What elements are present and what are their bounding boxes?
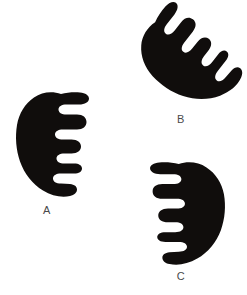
comb-silhouette-icon [15,91,91,199]
panel-label-a: A [35,204,59,216]
panel-label-c: C [169,270,193,282]
silhouette-path-b [126,0,247,121]
figure-panel-group: A B C [0,0,247,295]
panel-label-b: B [169,113,193,125]
specimen-silhouette-b [148,8,228,108]
specimen-silhouette-c [148,161,226,265]
silhouette-path-a [16,92,89,196]
comb-silhouette-icon [148,161,226,265]
specimen-silhouette-a [15,91,91,199]
comb-silhouette-icon [148,8,228,108]
silhouette-path-c [150,162,225,264]
